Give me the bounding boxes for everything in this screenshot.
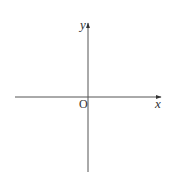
y-axis-label: y <box>78 17 86 32</box>
origin-label: O <box>79 97 88 111</box>
x-axis-label: x <box>154 96 161 111</box>
coordinate-plane: y x O <box>0 0 174 180</box>
